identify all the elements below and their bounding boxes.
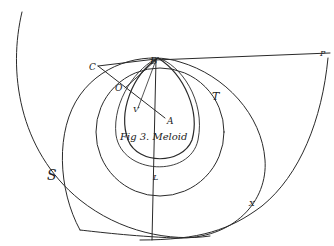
large-circle bbox=[62, 58, 265, 238]
line-B-L bbox=[152, 60, 156, 240]
right-arc-P-X bbox=[140, 58, 328, 240]
label-O: O bbox=[115, 83, 123, 93]
line-B-P bbox=[155, 53, 330, 60]
outer-arc-S bbox=[16, 12, 210, 238]
label-P: P bbox=[319, 49, 326, 58]
line-C-B bbox=[98, 59, 156, 66]
label-A: A bbox=[166, 116, 174, 126]
label-C: C bbox=[89, 62, 96, 72]
label-T: T bbox=[212, 90, 221, 103]
label-L: L bbox=[152, 173, 158, 182]
figure-caption: Fig 3. Meloid bbox=[119, 131, 187, 142]
label-X: X bbox=[248, 199, 255, 208]
label-B: B bbox=[149, 55, 157, 66]
label-S: S bbox=[47, 167, 57, 183]
geometric-diagram: B P C O V A T S L X Fig 3. Meloid bbox=[0, 0, 334, 246]
